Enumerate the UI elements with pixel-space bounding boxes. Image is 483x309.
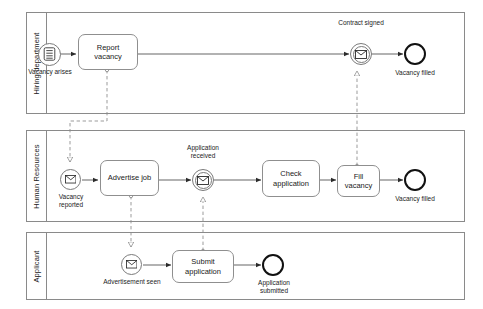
event-label-vacancy-filled-human-resources: Vacancy filled <box>386 195 444 203</box>
event-vacancy-arises[interactable] <box>38 43 61 66</box>
event-vacancy-filled-human-resources[interactable] <box>404 169 426 191</box>
pool-label-applicant: Applicant <box>32 250 41 282</box>
bpmn-diagram-canvas: Hiring department Vacancy arises Report … <box>0 0 483 309</box>
event-application-received[interactable] <box>192 169 214 191</box>
event-label-application-submitted: Application submitted <box>245 279 303 295</box>
task-check-application[interactable]: Check application <box>262 160 320 197</box>
event-label-application-received: Application received <box>175 144 231 160</box>
task-report-vacancy[interactable]: Report vacancy <box>78 34 138 70</box>
event-label-vacancy-arises: Vacancy arises <box>15 68 85 76</box>
pool-header-human-resources: Human Resources <box>27 131 47 221</box>
pool-header-applicant: Applicant <box>27 233 47 299</box>
envelope-icon <box>193 170 213 190</box>
task-submit-application[interactable]: Submit application <box>172 250 234 283</box>
event-label-advertisement-seen: Advertisement seen <box>103 278 161 286</box>
event-application-submitted[interactable] <box>262 254 284 276</box>
rule-document-icon <box>39 44 60 65</box>
event-advertisement-seen[interactable] <box>121 254 142 275</box>
task-advertise-job[interactable]: Advertise job <box>100 160 159 196</box>
event-label-vacancy-reported: Vacancy reported <box>46 193 96 209</box>
envelope-icon <box>61 170 80 189</box>
envelope-icon <box>351 44 371 64</box>
pool-label-human-resources: Human Resources <box>32 144 41 208</box>
event-label-vacancy-filled-hiring-department: Vacancy filled <box>386 69 444 77</box>
event-vacancy-filled-hiring-department[interactable] <box>404 43 426 65</box>
event-contract-signed[interactable] <box>350 43 372 65</box>
event-vacancy-reported[interactable] <box>60 169 81 190</box>
task-fill-vacancy[interactable]: Fill vacancy <box>337 165 380 197</box>
envelope-icon <box>122 255 141 274</box>
event-label-contract-signed: Contract signed <box>332 19 390 27</box>
